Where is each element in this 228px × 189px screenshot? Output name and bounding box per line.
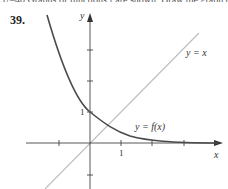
function-curve: [47, 15, 218, 143]
x-axis-label: x: [213, 149, 219, 160]
y-tick-label-1: 1: [80, 107, 85, 117]
identity-line-label: y = x: [185, 47, 207, 58]
y-axis-arrow-icon: [87, 13, 93, 22]
curve-label: y = f(x): [134, 121, 166, 133]
y-axis-label: y: [79, 10, 85, 21]
x-tick-label-1: 1: [119, 148, 124, 158]
identity-line: [45, 33, 199, 189]
function-graph: y x y = x y = f(x) 1 1: [0, 0, 228, 189]
